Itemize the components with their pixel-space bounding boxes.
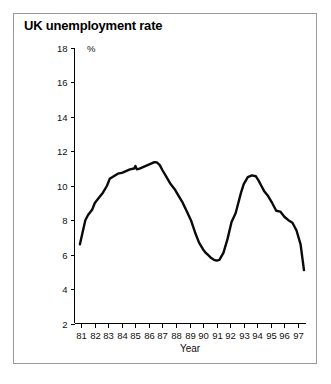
x-tick-label: 82 [90,330,101,341]
x-tick-label-group: 8182838485868788899091929394959697 [76,330,304,341]
y-tick-label: 10 [57,181,68,192]
y-tick-label: 4 [62,284,67,295]
x-tick-label: 87 [157,330,168,341]
x-tick-label: 84 [117,330,128,341]
x-tick-group [82,324,299,328]
x-tick-label: 96 [279,330,290,341]
x-tick-label: 85 [130,330,141,341]
y-axis-unit-label: % [87,43,96,54]
y-tick-label: 14 [57,112,68,123]
y-axis: 24681012141618 % [57,43,96,330]
y-tick-label: 8 [62,215,67,226]
y-tick-label: 16 [57,77,68,88]
y-tick-label: 18 [57,43,68,54]
x-tick-label: 81 [76,330,87,341]
y-tick-label: 6 [62,250,67,261]
x-tick-label: 83 [103,330,114,341]
y-tick-label: 12 [57,146,68,157]
x-tick-label: 97 [293,330,304,341]
x-tick-label: 95 [266,330,277,341]
x-tick-label: 89 [185,330,196,341]
x-tick-label: 86 [144,330,155,341]
x-tick-label: 93 [239,330,250,341]
y-tick-label: 2 [62,319,67,330]
chart-figure-container: UK unemployment rate 24681012141618 % 81… [13,13,317,364]
y-tick-group [71,49,75,325]
x-tick-label: 92 [225,330,236,341]
data-series-line-uk-unemployment-rate [80,162,304,270]
y-tick-label-group: 24681012141618 [57,43,68,330]
x-tick-label: 94 [252,330,263,341]
x-axis-title: Year [180,343,201,354]
line-chart-plot: 24681012141618 % 81828384858687888990919… [14,14,316,363]
x-tick-label: 91 [212,330,223,341]
x-tick-label: 88 [171,330,182,341]
x-axis: 8182838485868788899091929394959697 Year [75,324,307,355]
x-tick-label: 90 [198,330,209,341]
